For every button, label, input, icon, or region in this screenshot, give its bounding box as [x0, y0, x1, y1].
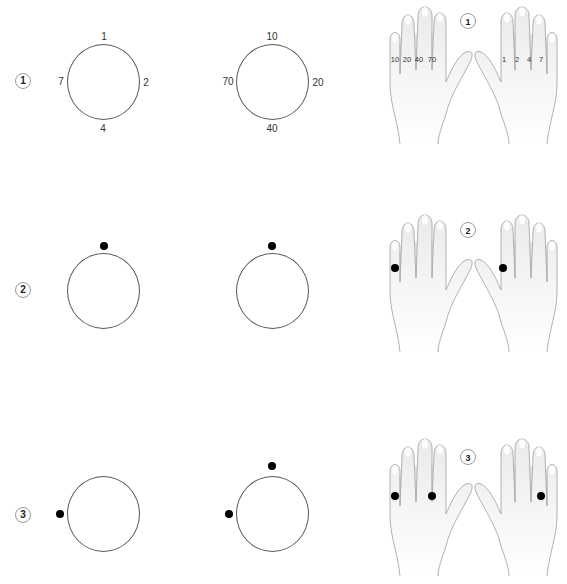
dial-label-bottom: 40	[266, 123, 277, 134]
dial-label-bottom: 4	[100, 123, 106, 134]
right-hand	[475, 439, 557, 576]
step-badge-1: 1	[15, 73, 31, 89]
finger-dot-left-pinky	[391, 492, 399, 500]
finger-dot-right-pinky	[537, 492, 545, 500]
hands-illustration-3: 3	[380, 432, 567, 577]
finger-label-right-pinky: 7	[539, 55, 543, 64]
finger-dot-left-pinky	[391, 264, 399, 272]
dial-dot-top	[100, 242, 108, 250]
dial-circle	[67, 253, 140, 329]
hands-illustration-1: 1 10 20 40 70 1 2 4 7	[380, 0, 567, 145]
dial-label-top: 10	[266, 31, 277, 42]
hands-illustration-2: 2	[380, 208, 567, 353]
dial-circle	[236, 253, 309, 329]
dial-dot-top	[268, 242, 276, 250]
finger-label-left-index: 70	[428, 55, 436, 64]
dial-dot-left	[56, 510, 64, 518]
dial-circle	[67, 476, 140, 552]
finger-label-left-ring: 20	[403, 55, 411, 64]
finger-label-left-pinky: 10	[391, 55, 399, 64]
dial-circle	[67, 44, 140, 120]
finger-label-right-middle: 2	[515, 55, 519, 64]
dial-label-top: 1	[101, 31, 107, 42]
finger-label-right-ring: 4	[527, 55, 531, 64]
dial-circle	[236, 476, 309, 552]
dial-label-left: 70	[222, 76, 233, 87]
left-hand	[390, 439, 472, 576]
dial-dot-top	[268, 462, 276, 470]
left-hand	[390, 7, 472, 144]
hands-badge-2: 2	[465, 226, 470, 236]
step-badge-2: 2	[15, 282, 31, 298]
hands-badge-3: 3	[465, 453, 470, 463]
finger-dot-left-index	[428, 492, 436, 500]
step-badge-3: 3	[15, 507, 31, 523]
right-hand	[475, 215, 557, 352]
dial-circle	[236, 44, 309, 120]
left-hand	[390, 215, 472, 352]
right-hand	[475, 7, 557, 144]
dial-label-right: 20	[312, 77, 323, 88]
dial-label-left: 7	[58, 76, 64, 87]
finger-dot-right-index	[499, 264, 507, 272]
finger-label-left-middle: 40	[415, 55, 423, 64]
dial-label-right: 2	[143, 77, 149, 88]
hands-badge-1: 1	[465, 17, 470, 27]
dial-dot-left	[225, 510, 233, 518]
finger-label-right-index: 1	[502, 55, 506, 64]
